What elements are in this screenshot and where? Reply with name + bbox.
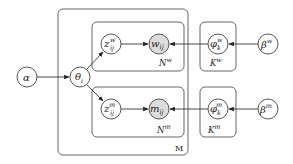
svg-text:k: k <box>217 44 221 52</box>
node-phi-w: φ w k <box>208 34 228 54</box>
plate-k-m-label: Km <box>207 123 221 135</box>
edge-theta-zw <box>87 52 103 69</box>
node-z-m: z m ij <box>101 99 121 119</box>
svg-text:ij: ij <box>110 109 114 117</box>
node-theta: θi <box>70 67 90 87</box>
svg-text:k: k <box>217 109 221 117</box>
plate-n-w-label: Nw <box>158 56 172 68</box>
svg-text:z: z <box>103 38 110 49</box>
svg-text:w: w <box>217 36 223 44</box>
svg-text:φ: φ <box>210 38 217 49</box>
node-w-observed: wij <box>149 34 169 54</box>
svg-text:m: m <box>109 101 115 109</box>
svg-text:w: w <box>110 36 116 44</box>
svg-text:α: α <box>23 72 30 83</box>
node-m-observed: mij <box>149 99 169 119</box>
plate-k-w-label: Kw <box>209 56 222 68</box>
svg-text:m: m <box>216 101 222 109</box>
svg-text:ij: ij <box>110 44 114 52</box>
node-beta-w: βw <box>258 34 278 54</box>
node-alpha: α <box>17 67 37 87</box>
graphical-model-diagram: M Nw Nm Kw Km α θi z w ij z m ij wij mij <box>0 0 293 164</box>
node-beta-m: βm <box>258 99 278 119</box>
node-z-w: z w ij <box>101 34 121 54</box>
node-phi-m: φ m k <box>208 99 228 119</box>
plate-n-m-label: Nm <box>156 123 171 135</box>
plate-m-label: M <box>175 144 183 153</box>
